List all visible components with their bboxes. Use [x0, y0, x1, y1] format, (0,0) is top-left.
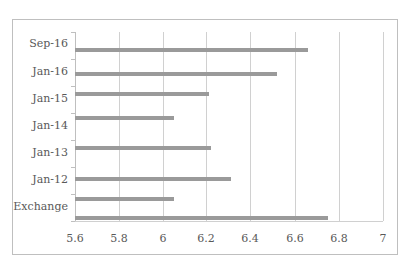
y-tick — [71, 194, 75, 195]
bar — [75, 197, 174, 201]
gridline — [295, 32, 296, 221]
y-axis-label: Jan-13 — [32, 146, 68, 159]
gridline — [206, 32, 207, 221]
bar — [75, 92, 209, 96]
gridline — [339, 32, 340, 221]
bar — [75, 177, 231, 181]
bar — [75, 116, 174, 120]
y-axis-label: Jan-12 — [32, 173, 68, 186]
x-axis-label: 6.4 — [230, 232, 270, 245]
y-tick — [71, 113, 75, 114]
y-axis-label: Jan-14 — [32, 119, 68, 132]
x-axis-label: 7 — [363, 232, 403, 245]
gridline — [163, 32, 164, 221]
x-axis-label: 5.6 — [55, 232, 95, 245]
bar — [75, 72, 277, 76]
x-axis-label: 5.8 — [99, 232, 139, 245]
y-tick — [71, 167, 75, 168]
y-axis-label: Exchange — [13, 200, 68, 213]
y-tick — [71, 59, 75, 60]
y-tick — [71, 140, 75, 141]
y-tick — [71, 32, 75, 33]
bar — [75, 216, 328, 220]
x-axis-label: 6.6 — [275, 232, 315, 245]
gridline — [250, 32, 251, 221]
y-axis-label: Jan-16 — [32, 65, 68, 78]
bar — [75, 146, 211, 150]
y-tick — [71, 86, 75, 87]
x-axis-label: 6 — [143, 232, 183, 245]
bar — [75, 48, 308, 52]
x-axis-label: 6.2 — [186, 232, 226, 245]
y-axis-line — [75, 32, 76, 221]
x-axis-label: 6.8 — [319, 232, 359, 245]
y-axis-label: Jan-15 — [32, 92, 68, 105]
x-axis-line — [75, 221, 383, 222]
y-axis-label: Sep-16 — [29, 37, 68, 50]
gridline — [383, 32, 384, 221]
gridline — [119, 32, 120, 221]
y-tick — [71, 221, 75, 222]
